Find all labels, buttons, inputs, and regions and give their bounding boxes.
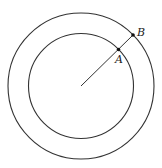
point-b: [131, 33, 135, 37]
concentric-circles-diagram: A B: [0, 0, 162, 168]
point-a: [117, 48, 121, 52]
label-a: A: [114, 53, 123, 66]
label-b: B: [136, 26, 145, 39]
radius-segment: [81, 35, 133, 86]
